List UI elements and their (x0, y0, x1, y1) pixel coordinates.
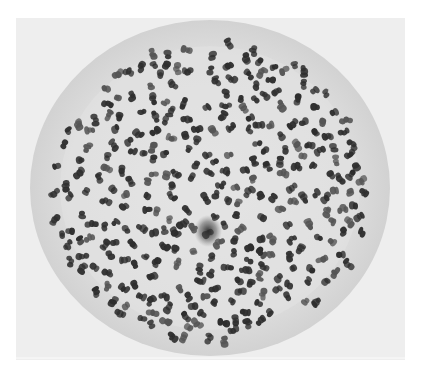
micrograph-photo (16, 18, 405, 360)
centrosome-spot (194, 215, 222, 247)
chromosome (276, 156, 285, 169)
micrograph-canvas (16, 18, 405, 360)
chromatid (148, 149, 155, 154)
chromatid (248, 259, 254, 265)
